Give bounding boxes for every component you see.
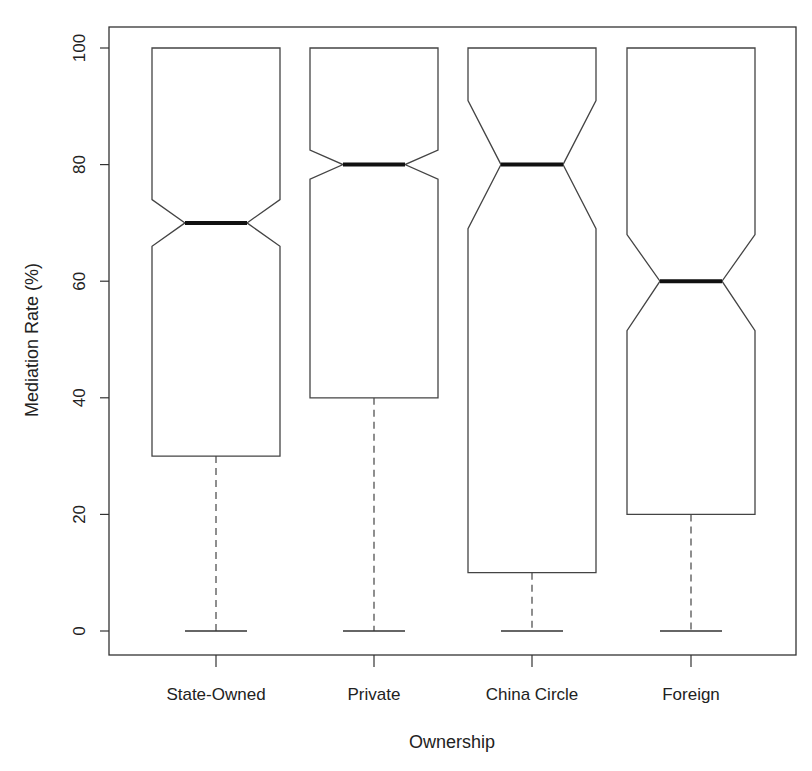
y-tick-label: 60 <box>70 272 89 291</box>
x-tick-label: Foreign <box>662 685 720 704</box>
box-china-circle <box>468 48 596 631</box>
x-axis-title: Ownership <box>409 732 495 752</box>
boxplot-chart: 020406080100 State-OwnedPrivateChina Cir… <box>0 0 812 771</box>
x-tick-label: Private <box>348 685 401 704</box>
y-tick-label: 80 <box>70 155 89 174</box>
notched-box <box>152 48 280 456</box>
y-tick-label: 100 <box>70 34 89 62</box>
y-tick-label: 40 <box>70 388 89 407</box>
y-tick-label: 0 <box>70 626 89 635</box>
x-tick-label: State-Owned <box>166 685 265 704</box>
notched-box <box>468 48 596 573</box>
x-tick-label: China Circle <box>486 685 579 704</box>
notched-box <box>310 48 438 398</box>
y-axis-title: Mediation Rate (%) <box>22 263 42 417</box>
y-tick-label: 20 <box>70 505 89 524</box>
